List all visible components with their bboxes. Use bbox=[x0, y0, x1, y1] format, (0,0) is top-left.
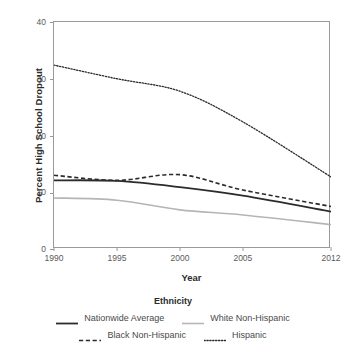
legend-title: Ethnicity bbox=[0, 296, 346, 306]
legend-row-2: Black Non-HispanicHispanic bbox=[0, 330, 346, 340]
legend-item-hispanic[interactable]: Hispanic bbox=[204, 330, 267, 340]
chart-figure: Percent High School Dropout 010203040 19… bbox=[0, 0, 346, 361]
legend-swatch-hispanic-icon bbox=[204, 331, 226, 340]
series-canvas bbox=[54, 22, 331, 249]
legend-entries: Nationwide AverageWhite Non-HispanicBlac… bbox=[0, 313, 346, 340]
legend-label-black-non-hispanic: Black Non-Hispanic bbox=[107, 330, 186, 340]
legend-label-hispanic: Hispanic bbox=[232, 330, 267, 340]
x-tick-1990: 1990 bbox=[45, 247, 64, 263]
plot-area: 010203040 19901995200020052012 bbox=[53, 21, 330, 248]
x-tick-2005: 2005 bbox=[233, 247, 252, 263]
series-line-hispanic bbox=[54, 65, 331, 177]
legend: Ethnicity Nationwide AverageWhite Non-Hi… bbox=[0, 296, 346, 347]
x-tick-2012: 2012 bbox=[322, 247, 341, 263]
legend-row-1: Nationwide AverageWhite Non-Hispanic bbox=[0, 313, 346, 323]
y-tick-20: 20 bbox=[37, 131, 54, 141]
y-tick-40: 40 bbox=[37, 17, 54, 27]
legend-swatch-black-non-hispanic-icon bbox=[79, 331, 101, 340]
x-tick-2000: 2000 bbox=[170, 247, 189, 263]
legend-label-white-non-hispanic: White Non-Hispanic bbox=[210, 313, 290, 323]
legend-swatch-nationwide-average-icon bbox=[56, 314, 78, 323]
legend-swatch-white-non-hispanic-icon bbox=[182, 314, 204, 323]
y-tick-30: 30 bbox=[37, 74, 54, 84]
legend-item-nationwide-average[interactable]: Nationwide Average bbox=[56, 313, 164, 323]
x-tick-1995: 1995 bbox=[107, 247, 126, 263]
x-axis-title: Year bbox=[53, 272, 330, 283]
legend-item-white-non-hispanic[interactable]: White Non-Hispanic bbox=[182, 313, 290, 323]
series-line-black-non-hispanic bbox=[54, 174, 331, 206]
series-line-nationwide-average bbox=[54, 180, 331, 211]
legend-item-black-non-hispanic[interactable]: Black Non-Hispanic bbox=[79, 330, 186, 340]
y-tick-10: 10 bbox=[37, 187, 54, 197]
legend-label-nationwide-average: Nationwide Average bbox=[84, 313, 164, 323]
series-line-white-non-hispanic bbox=[54, 198, 331, 225]
